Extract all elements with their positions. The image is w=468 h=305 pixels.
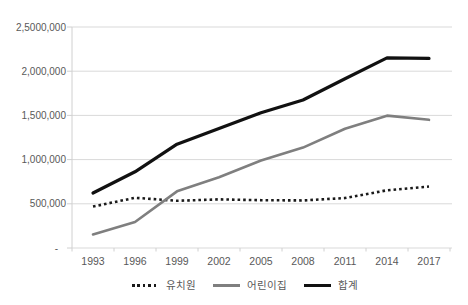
line-chart: -500,0001,000,0001,500,0002,000,0002,500… [0, 0, 468, 305]
y-axis-label: 2,5000,000 [16, 22, 66, 33]
legend-label-daycare: 어린이집 [247, 280, 287, 291]
x-axis-label: 2008 [291, 255, 315, 267]
plot-area: -500,0001,000,0001,500,0002,000,0002,500… [0, 0, 468, 278]
legend-item-daycare: 어린이집 [213, 280, 287, 291]
y-axis-label: 1,500,000 [22, 110, 67, 121]
x-axis-label: 2017 [417, 255, 441, 267]
legend-item-kindergarten: 유치원 [132, 280, 196, 291]
dotted-line-sample-icon [132, 284, 159, 287]
x-axis-label: 1993 [81, 255, 105, 267]
black-line-sample-icon [304, 284, 331, 287]
legend-item-total: 합계 [304, 280, 358, 291]
legend: 유치원 어린이집 합계 [0, 280, 468, 291]
x-axis-label: 2011 [334, 255, 357, 267]
x-axis-label: 2005 [249, 255, 273, 267]
series-line-total [93, 58, 429, 193]
x-axis-label: 1999 [165, 255, 189, 267]
y-axis-label: - [55, 243, 58, 254]
gray-line-sample-icon [213, 284, 240, 287]
x-axis-label: 2002 [207, 255, 231, 267]
x-axis-label: 2014 [375, 255, 399, 267]
legend-label-kindergarten: 유치원 [166, 280, 196, 291]
y-axis-label: 1,000,000 [22, 154, 67, 165]
series-line-daycare [93, 116, 429, 235]
x-axis-label: 1996 [123, 255, 147, 267]
y-axis-label: 2,000,000 [22, 66, 67, 77]
legend-label-total: 합계 [338, 280, 358, 291]
y-axis-label: 500,000 [30, 198, 67, 209]
